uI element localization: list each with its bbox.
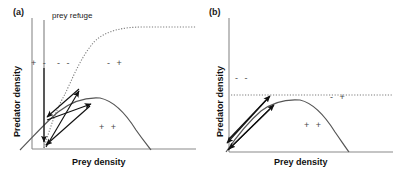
panel-b-plot: [201, 0, 401, 179]
sign-region-plus-minus: + -: [31, 58, 48, 68]
sign-region-minus-minus: - -: [57, 58, 72, 68]
sign-region-plus-plus: + +: [304, 120, 323, 130]
prey-isocline-hump: [226, 100, 349, 152]
trajectory-arrow-1: [47, 89, 79, 117]
sign-region-minus-plus: - +: [330, 92, 347, 102]
y-axis-label: Predator density: [12, 66, 22, 137]
x-axis-label: Prey density: [274, 157, 328, 167]
panel-a-plot: [0, 0, 200, 179]
panel-b: (b) - - - + + + Pr: [201, 0, 401, 179]
figure-root: (a) pre: [0, 0, 401, 179]
sign-region-plus-plus: + +: [99, 122, 118, 132]
trajectory-arrows: [227, 96, 274, 150]
predator-isocline-sigmoid: [44, 27, 196, 148]
trajectory-arrow-2: [227, 97, 269, 143]
sign-region-minus-minus: - -: [235, 73, 250, 83]
y-axis-label: Predator density: [215, 66, 225, 137]
prey-refuge-label: prey refuge: [52, 11, 92, 20]
trajectory-arrows: [44, 68, 91, 147]
panel-a: (a) pre: [0, 0, 200, 179]
sign-region-minus-plus: - +: [107, 58, 124, 68]
trajectory-arrow-4: [229, 106, 273, 149]
x-axis-label: Prey density: [72, 157, 126, 167]
trajectory-arrow-2: [47, 104, 91, 120]
